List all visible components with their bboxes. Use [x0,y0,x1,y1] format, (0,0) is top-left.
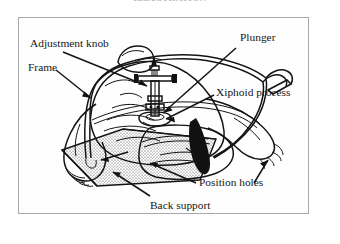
leader-adjustment-knob [63,52,147,86]
label-position-holes[interactable]: Position holes [199,177,263,188]
leader-back-support [101,152,150,196]
label-back-support[interactable]: Back support [150,200,210,211]
label-plunger[interactable]: Plunger [240,32,275,43]
figure-page: ILLUSTRATION [0,0,340,244]
leader-xiphoid-process [166,95,214,123]
leader-frame [56,70,91,98]
label-frame[interactable]: Frame [28,62,57,73]
label-adjustment-knob[interactable]: Adjustment knob [30,38,109,49]
label-xiphoid-process[interactable]: Xiphoid process [216,87,290,98]
leader-plunger [163,48,236,113]
